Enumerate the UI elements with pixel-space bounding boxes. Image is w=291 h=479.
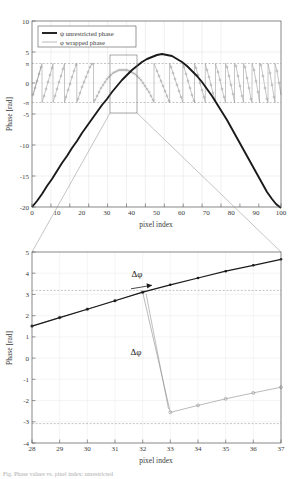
top-xtick-30: 30	[103, 209, 111, 217]
figure-container: 0 10 20 30 40 50 60 70 80 90 100 10 5 π …	[0, 0, 291, 479]
bottom-ytick-3: 3	[26, 291, 30, 299]
top-ytick-neg10: -10	[20, 142, 30, 150]
top-ytick-5: 5	[26, 49, 30, 57]
figure-svg: 0 10 20 30 40 50 60 70 80 90 100 10 5 π …	[0, 0, 291, 479]
bottom-xtick-31: 31	[112, 445, 120, 453]
top-ytick-neg15: -15	[20, 173, 30, 181]
bottom-ytick-neg4: -4	[23, 440, 29, 448]
top-ytick-neg20: -20	[20, 204, 30, 212]
bottom-xtick-29: 29	[56, 445, 64, 453]
bottom-ytick-neg2: -2	[23, 397, 29, 405]
bottom-panel-ytick-labels: 5 4 3 2 1 0 -1 -2 -3 -4	[23, 249, 29, 448]
wrap-jump-line	[146, 294, 169, 410]
delta-phi-lower-label: Δφ	[131, 347, 142, 357]
delta-phi-upper-arrow	[131, 283, 152, 289]
top-xtick-0: 0	[30, 209, 34, 217]
top-panel-xaxis-title: pixel index	[139, 220, 173, 229]
bottom-ytick-2: 2	[26, 312, 30, 320]
top-panel-xtick-labels: 0 10 20 30 40 50 60 70 80 90 100	[30, 209, 287, 217]
bottom-xtick-30: 30	[84, 445, 92, 453]
bottom-series-unrestricted-markers	[31, 258, 283, 327]
bottom-xtick-28: 28	[29, 445, 37, 453]
top-xtick-80: 80	[228, 209, 236, 217]
top-xtick-20: 20	[78, 209, 86, 217]
top-xtick-70: 70	[203, 209, 211, 217]
bottom-xtick-32: 32	[139, 445, 147, 453]
figure-caption: Fig. Phase values vs. pixel index: unres…	[3, 470, 288, 479]
top-xtick-60: 60	[178, 209, 186, 217]
legend-label-unrestricted: ψ unrestricted phase	[60, 30, 114, 37]
bottom-series-wrapped-phase	[32, 292, 281, 412]
top-ytick-neg5: -5	[23, 111, 29, 119]
delta-phi-upper-label: Δφ	[132, 269, 143, 279]
top-xtick-40: 40	[128, 209, 136, 217]
bottom-xtick-35: 35	[222, 445, 230, 453]
zoom-connector-lines	[32, 113, 281, 252]
top-xtick-90: 90	[253, 209, 261, 217]
bottom-panel: Δφ Δφ 28	[5, 249, 285, 466]
top-ytick-0: 0	[26, 80, 30, 88]
bottom-ytick-1: 1	[26, 333, 30, 341]
bottom-series-unrestricted-phase	[32, 259, 281, 326]
bottom-xtick-33: 33	[167, 445, 175, 453]
top-panel-yaxis-title: Phase [rad]	[5, 97, 14, 131]
top-ytick-negpi: -π	[23, 99, 29, 107]
bottom-ytick-5: 5	[26, 249, 30, 257]
top-panel: 0 10 20 30 40 50 60 70 80 90 100 10 5 π …	[5, 18, 287, 230]
bottom-panel-yaxis-title: Phase [rad]	[5, 331, 14, 365]
top-xtick-10: 10	[53, 209, 61, 217]
bottom-ytick-4: 4	[26, 270, 30, 278]
top-xtick-100: 100	[276, 209, 287, 217]
bottom-ytick-0: 0	[26, 355, 30, 363]
bottom-xtick-36: 36	[250, 445, 258, 453]
top-xtick-50: 50	[153, 209, 161, 217]
top-panel-ytick-labels: 10 5 π 0 -π -5 -10 -15 -20	[20, 18, 30, 212]
bottom-panel-xaxis-title: pixel index	[139, 456, 173, 465]
top-panel-grid	[32, 21, 281, 207]
legend: ψ unrestricted phase φ wrapped phase	[38, 26, 136, 47]
bottom-ytick-neg1: -1	[23, 376, 29, 384]
top-ytick-10: 10	[22, 18, 30, 26]
bottom-panel-xtick-labels: 28 29 30 31 32 33 34 35 36 37	[29, 445, 286, 453]
bottom-xtick-34: 34	[195, 445, 203, 453]
bottom-xtick-37: 37	[278, 445, 286, 453]
bottom-panel-pi-gridlines	[32, 290, 281, 423]
top-ytick-pi: π	[25, 60, 29, 68]
legend-label-wrapped: φ wrapped phase	[60, 39, 105, 46]
bottom-ytick-neg3: -3	[23, 418, 29, 426]
